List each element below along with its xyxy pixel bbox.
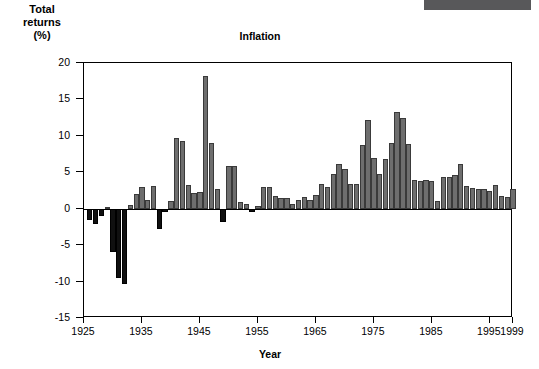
- bar: [476, 189, 481, 209]
- y-axis-title-line1: Total: [6, 3, 78, 16]
- chart-title: Inflation: [180, 30, 340, 42]
- x-tick-label: 1925: [60, 326, 106, 337]
- bar: [487, 191, 492, 209]
- x-tick-label: 1965: [292, 326, 338, 337]
- y-tick: [76, 281, 83, 282]
- top-gray-bar: [424, 0, 531, 10]
- y-tick-label: 10: [30, 130, 70, 140]
- bar: [99, 209, 104, 216]
- bar: [151, 186, 156, 209]
- y-axis-title-line2: returns: [6, 16, 78, 29]
- x-tick: [315, 317, 316, 323]
- bar: [389, 143, 394, 209]
- y-tick-label: 15: [30, 93, 70, 103]
- bar: [336, 164, 341, 208]
- bar: [226, 166, 231, 208]
- x-tick: [512, 317, 513, 323]
- bar: [313, 195, 318, 209]
- y-tick: [76, 171, 83, 172]
- bar: [255, 206, 260, 209]
- bar: [383, 159, 388, 209]
- bar: [261, 187, 266, 209]
- bar: [296, 200, 301, 209]
- bar: [307, 200, 312, 209]
- bar: [267, 187, 272, 209]
- bar: [435, 201, 440, 209]
- bar: [423, 180, 428, 209]
- bar: [371, 158, 376, 209]
- bar: [105, 207, 110, 209]
- x-tick-label: 1975: [350, 326, 396, 337]
- bar: [122, 209, 127, 284]
- zero-line: [84, 209, 511, 210]
- x-tick-label: 1999: [489, 326, 535, 337]
- bar: [145, 200, 150, 209]
- plot-area: [83, 62, 512, 317]
- bar: [203, 76, 208, 209]
- bar: [447, 177, 452, 209]
- bar: [232, 166, 237, 209]
- bar: [209, 143, 214, 209]
- bar: [110, 209, 115, 253]
- bar: [157, 209, 162, 229]
- bar: [377, 174, 382, 209]
- y-tick: [76, 62, 83, 63]
- bar: [452, 175, 457, 209]
- bar: [302, 197, 307, 209]
- y-tick: [76, 244, 83, 245]
- bar: [180, 141, 185, 209]
- x-tick-label: 1945: [176, 326, 222, 337]
- bar: [273, 196, 278, 209]
- bar: [249, 209, 254, 213]
- bar: [191, 193, 196, 208]
- bar: [510, 189, 515, 209]
- x-tick: [257, 317, 258, 323]
- bar: [458, 164, 463, 208]
- x-tick-label: 1935: [118, 326, 164, 337]
- x-tick: [199, 317, 200, 323]
- y-tick: [76, 208, 83, 209]
- bar: [284, 198, 289, 209]
- bar: [290, 204, 295, 209]
- bar: [365, 120, 370, 209]
- x-tick: [141, 317, 142, 323]
- x-tick-label: 1985: [408, 326, 454, 337]
- y-tick-label: -10: [30, 276, 70, 286]
- x-tick-label: 1955: [234, 326, 280, 337]
- bar: [360, 145, 365, 209]
- y-tick: [76, 98, 83, 99]
- y-tick-label: 5: [30, 166, 70, 176]
- bar: [116, 209, 121, 278]
- bar: [499, 196, 504, 208]
- bar: [238, 202, 243, 209]
- bar: [441, 177, 446, 209]
- bar: [406, 144, 411, 209]
- y-tick-label: 20: [30, 57, 70, 67]
- bar: [400, 118, 405, 208]
- bar: [93, 209, 98, 224]
- bar: [134, 194, 139, 209]
- bar: [220, 209, 225, 222]
- bar: [505, 197, 510, 209]
- bar: [331, 174, 336, 208]
- y-tick-label: 0: [30, 203, 70, 213]
- bar: [325, 187, 330, 209]
- bar: [215, 189, 220, 209]
- x-axis-title: Year: [235, 348, 305, 360]
- bars-container: [84, 63, 511, 316]
- y-tick-label: -5: [30, 239, 70, 249]
- x-tick: [489, 317, 490, 323]
- bar: [429, 181, 434, 209]
- bar: [481, 189, 486, 209]
- bar: [174, 138, 179, 209]
- bar: [87, 209, 92, 220]
- y-axis-title-line3: (%): [6, 29, 78, 42]
- bar: [354, 184, 359, 209]
- bar: [128, 205, 133, 209]
- x-tick: [373, 317, 374, 323]
- bar: [278, 198, 283, 209]
- bar: [464, 186, 469, 209]
- bar: [470, 188, 475, 209]
- bar: [139, 187, 144, 209]
- bar: [348, 184, 353, 209]
